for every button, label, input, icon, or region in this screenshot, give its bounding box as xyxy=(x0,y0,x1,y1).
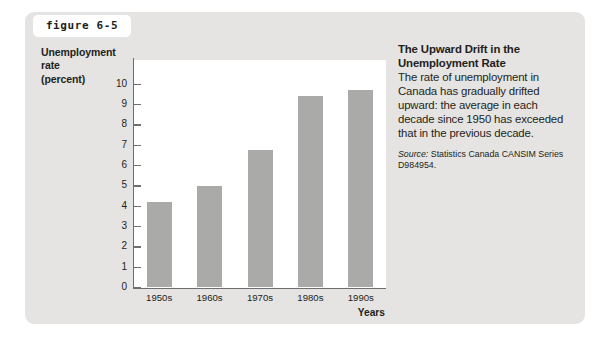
y-tick-0 xyxy=(134,287,141,288)
x-tick-label-1960s: 1960s xyxy=(183,292,237,303)
y-tick-2 xyxy=(134,246,141,247)
y-tick-label-3: 3 xyxy=(97,220,127,231)
bar-1960s xyxy=(197,186,222,288)
x-tick-label-1990s: 1990s xyxy=(334,292,388,303)
y-tick-label-7: 7 xyxy=(97,139,127,150)
y-tick-label-2: 2 xyxy=(97,240,127,251)
x-axis-line xyxy=(133,288,386,289)
bar-1990s xyxy=(348,90,373,287)
y-tick-6 xyxy=(134,165,141,166)
y-axis-line xyxy=(133,58,134,288)
bar-1970s xyxy=(248,150,273,287)
caption-source: Source: Statistics Canada CANSIM Series … xyxy=(398,149,570,171)
y-axis-title-line-2: rate xyxy=(41,59,133,72)
caption-source-label: Source: xyxy=(398,149,428,159)
y-tick-label-9: 9 xyxy=(97,98,127,109)
y-tick-5 xyxy=(134,185,141,186)
bar-1980s xyxy=(298,96,323,287)
caption-title: The Upward Drift in the Unemployment Rat… xyxy=(398,42,570,70)
x-tick-label-1950s: 1950s xyxy=(132,292,186,303)
y-tick-label-8: 8 xyxy=(97,118,127,129)
y-tick-label-10: 10 xyxy=(97,78,127,89)
y-tick-8 xyxy=(134,124,141,125)
figure-caption: The Upward Drift in the Unemployment Rat… xyxy=(398,42,570,171)
y-tick-7 xyxy=(134,145,141,146)
y-tick-1 xyxy=(134,267,141,268)
y-tick-10 xyxy=(134,84,141,85)
x-axis-title: Years xyxy=(275,307,385,318)
y-axis-title-line-1: Unemployment xyxy=(41,46,133,59)
y-tick-label-0: 0 xyxy=(97,281,127,292)
bar-chart: Unemployment rate (percent) 109876543210… xyxy=(25,12,390,324)
bar-1950s xyxy=(147,202,172,287)
y-tick-9 xyxy=(134,104,141,105)
y-tick-label-4: 4 xyxy=(97,200,127,211)
x-tick-label-1970s: 1970s xyxy=(233,292,287,303)
y-tick-label-1: 1 xyxy=(97,261,127,272)
y-tick-4 xyxy=(134,206,141,207)
caption-body: The rate of unemployment in Canada has g… xyxy=(398,70,570,140)
figure-panel: figure 6-5 Unemployment rate (percent) 1… xyxy=(25,12,585,324)
x-tick-label-1980s: 1980s xyxy=(283,292,337,303)
y-tick-label-6: 6 xyxy=(97,159,127,170)
y-tick-3 xyxy=(134,226,141,227)
y-tick-label-5: 5 xyxy=(97,179,127,190)
